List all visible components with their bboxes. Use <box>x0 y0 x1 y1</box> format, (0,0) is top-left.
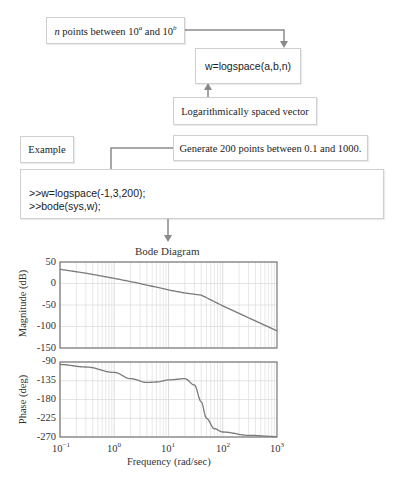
phase-tick: -180 <box>37 393 56 404</box>
x-tick: 101 <box>161 441 175 454</box>
x-tick: 100 <box>107 441 121 454</box>
magnitude-axis-label: Magnitude (dB) <box>17 264 28 344</box>
x-axis-label: Frequency (rad/sec) <box>127 456 211 467</box>
mag-tick: -50 <box>42 299 56 310</box>
x-tick: 102 <box>216 441 230 454</box>
bode-chart <box>0 0 401 487</box>
mag-tick: 0 <box>51 277 56 288</box>
mag-tick: -100 <box>37 320 56 331</box>
phase-axis-label: Phase (deg) <box>17 360 28 440</box>
phase-tick: -135 <box>37 374 56 385</box>
x-tick: 10−1 <box>52 441 70 454</box>
mag-tick: -150 <box>37 342 56 353</box>
phase-tick: -225 <box>37 412 56 423</box>
x-tick: 103 <box>270 441 284 454</box>
mag-tick: 50 <box>46 256 57 267</box>
phase-tick: -90 <box>42 355 56 366</box>
